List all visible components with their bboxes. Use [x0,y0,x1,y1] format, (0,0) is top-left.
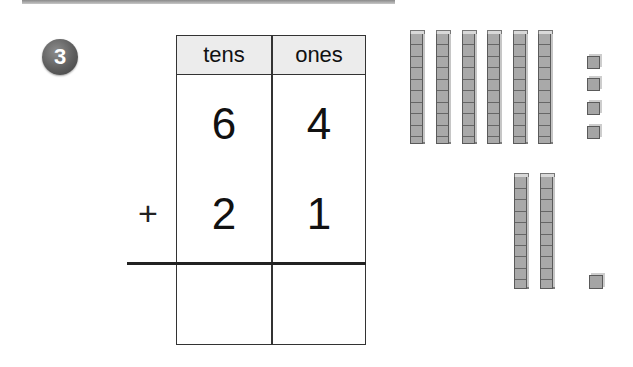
ones-unit-icon [587,126,600,139]
ones-unit-icon [589,275,603,289]
header-ones: ones [272,36,366,74]
addend1-ones-digit: 4 [272,102,366,146]
header-tens: tens [177,36,271,74]
addend1-tens-digit: 6 [177,102,271,146]
answer-tens-box[interactable] [177,286,271,342]
tens-rod-icon [462,33,475,144]
addend2-ones-digit: 1 [272,192,366,236]
answer-ones-box[interactable] [272,286,366,342]
problem-number: 3 [54,44,66,69]
tens-rod-icon [410,33,423,144]
addend2-tens-digit: 2 [177,192,271,236]
problem-number-badge: 3 [42,39,78,75]
tens-rod-icon [540,176,553,289]
tens-rod-icon [436,33,449,144]
ones-unit-icon [587,102,600,115]
tens-rod-icon [514,176,527,289]
ones-unit-icon [587,56,600,69]
tens-rod-icon [487,33,500,144]
ones-unit-icon [587,78,600,91]
place-value-chart: tens ones 6 4 2 1 [176,35,366,345]
plus-sign: + [128,196,168,230]
tens-rod-icon [513,33,526,144]
sum-line [127,262,366,265]
top-divider-bar [22,0,395,4]
tens-rod-icon [538,33,551,144]
